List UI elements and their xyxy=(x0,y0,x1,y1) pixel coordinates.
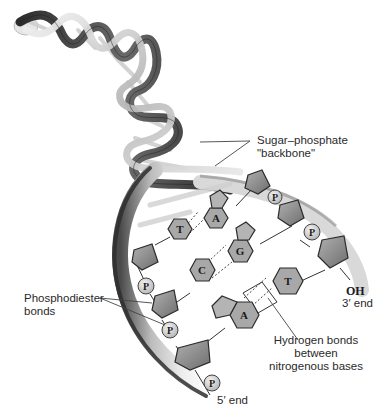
phosphate-1: P xyxy=(268,190,282,204)
sugar-right-3 xyxy=(318,236,348,268)
svg-text:T: T xyxy=(284,275,292,287)
svg-text:P: P xyxy=(143,281,149,292)
backbone-label-line1: Sugar–phosphate xyxy=(257,134,348,147)
svg-text:G: G xyxy=(236,245,245,257)
hydroxyl-label: OH xyxy=(346,284,365,298)
base-t-1: T xyxy=(168,219,192,239)
backbone-label: Sugar–phosphate "backbone" xyxy=(257,134,348,160)
hydrogen-bonds-label: Hydrogen bonds between nitrogenous bases xyxy=(266,334,366,373)
svg-text:P: P xyxy=(167,325,173,336)
svg-text:A: A xyxy=(240,309,248,321)
svg-text:A: A xyxy=(212,212,220,224)
hydrogen-bonds-label-line1: Hydrogen bonds xyxy=(266,334,366,347)
phosphate-2: P xyxy=(304,224,320,240)
upper-helix xyxy=(14,15,240,190)
svg-text:P: P xyxy=(209,378,215,389)
sugar-left-2 xyxy=(152,290,178,318)
phosphodiester-label: Phosphodiester bonds xyxy=(24,292,104,318)
phosphodiester-label-line2: bonds xyxy=(24,305,104,318)
sugar-left-1 xyxy=(132,244,158,270)
hydrogen-bonds-label-line2: between xyxy=(266,347,366,360)
backbone-label-line2: "backbone" xyxy=(257,147,348,160)
svg-text:P: P xyxy=(272,192,278,203)
dna-diagram: P P P P P T A C xyxy=(0,0,385,415)
svg-text:P: P xyxy=(309,227,315,238)
phosphate-5: P xyxy=(204,375,220,391)
phosphodiester-label-line1: Phosphodiester xyxy=(24,292,104,305)
five-prime-end-label: 5′ end xyxy=(217,394,248,407)
three-prime-end-label: 3′ end xyxy=(342,297,373,310)
base-g: G xyxy=(228,222,255,262)
base-a-2: A xyxy=(212,296,259,328)
base-c: C xyxy=(190,259,215,281)
hydrogen-bonds-label-line3: nitrogenous bases xyxy=(266,360,366,373)
base-t-2: T xyxy=(273,268,303,294)
phosphate-3: P xyxy=(138,278,154,294)
svg-text:T: T xyxy=(176,223,184,235)
base-a-1: A xyxy=(204,190,228,228)
svg-text:C: C xyxy=(198,264,206,276)
